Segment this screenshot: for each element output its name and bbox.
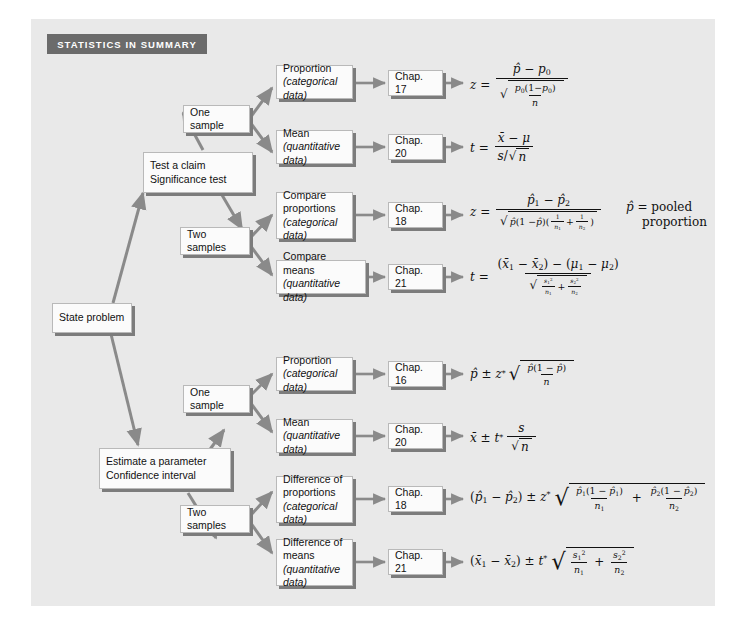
row-label-line1: Compare means xyxy=(283,250,359,277)
row-label-line1: Proportion xyxy=(283,354,346,368)
chapter-label: Chap. 21 xyxy=(395,264,436,291)
chapter-label: Chap. 18 xyxy=(395,486,436,513)
node-chapter-test-two-means[interactable]: Chap. 21 xyxy=(388,264,443,290)
node-label-test-one-proportion[interactable]: Proportion (categorical data) xyxy=(276,65,353,99)
pooled-line2: proportion xyxy=(642,215,707,229)
chapter-label: Chap. 20 xyxy=(395,423,436,450)
node-estimate-a-parameter[interactable]: Estimate a parameter Confidence interval xyxy=(99,448,231,489)
node-chapter-est-one-mean[interactable]: Chap. 20 xyxy=(388,423,443,449)
node-test-a-claim-line2: Significance test xyxy=(150,173,246,187)
row-label-line3: (categorical data) xyxy=(283,216,346,243)
row-label-line2: (categorical data) xyxy=(283,367,346,394)
formula-est-two-means: (x̄1 − x̄2) ± t* √ s12 n1 + s22 n2 xyxy=(470,547,635,575)
node-chapter-test-two-proportions[interactable]: Chap. 18 xyxy=(388,202,443,228)
node-label-test-two-means[interactable]: Compare means (quantitative data) xyxy=(276,260,366,294)
node-label-est-one-proportion[interactable]: Proportion (categorical data) xyxy=(276,357,353,391)
section-header-label: STATISTICS IN SUMMARY xyxy=(57,39,197,50)
pooled-line1: = pooled xyxy=(638,200,693,214)
row-label-line2: (quantitative data) xyxy=(283,429,346,456)
row-label-line1: Mean xyxy=(283,416,346,430)
node-label-est-one-mean[interactable]: Mean (quantitative data) xyxy=(276,419,353,453)
node-chapter-est-two-means[interactable]: Chap. 21 xyxy=(388,549,443,575)
node-est-two-samples-label: Two samples xyxy=(187,506,243,533)
figure-root: STATISTICS IN SUMMARY xyxy=(0,0,748,633)
node-chapter-test-one-proportion[interactable]: Chap. 17 xyxy=(388,70,443,96)
row-label-line1: Mean xyxy=(283,127,346,141)
chapter-label: Chap. 16 xyxy=(395,361,436,388)
content-panel xyxy=(31,19,715,606)
node-chapter-test-one-mean[interactable]: Chap. 20 xyxy=(388,134,443,160)
chapter-label: Chap. 20 xyxy=(395,134,436,161)
node-state-problem-label: State problem xyxy=(59,311,125,325)
chapter-label: Chap. 17 xyxy=(395,70,436,97)
row-label-line2: (quantitative data) xyxy=(283,140,346,167)
row-label-line3: (categorical data) xyxy=(283,500,346,527)
node-label-est-two-proportions[interactable]: Difference of proportions (categorical d… xyxy=(276,476,353,523)
node-est-one-sample[interactable]: One sample xyxy=(183,385,250,413)
row-label-line2: means xyxy=(283,549,346,563)
row-label-line2: proportions xyxy=(283,202,346,216)
node-test-a-claim[interactable]: Test a claim Significance test xyxy=(143,152,253,193)
formula-test-two-means: t = (x̄1 − x̄2) − (μ1 − μ2) √ s12n1 + s2… xyxy=(470,257,624,296)
formula-test-one-proportion: z = p̂ − p0 √ p0(1−p0) n xyxy=(470,62,570,108)
row-label-line2: (quantitative data) xyxy=(283,277,359,304)
pooled-symbol: p̂ xyxy=(626,200,638,214)
annotation-pooled-proportion: p̂ = pooled proportion xyxy=(626,200,707,230)
node-label-est-two-means[interactable]: Difference of means (quantitative data) xyxy=(276,539,353,586)
row-label-line1: Difference of xyxy=(283,473,346,487)
formula-est-two-proportions: (p̂1 − p̂2) ± z* √ p̂1(1 − p̂1) n1 + p̂2… xyxy=(470,483,706,511)
node-test-one-sample[interactable]: One sample xyxy=(183,105,250,133)
row-label-line2: proportions xyxy=(283,486,346,500)
row-label-line1: Proportion xyxy=(283,62,346,76)
chapter-label: Chap. 18 xyxy=(395,202,436,229)
node-label-test-one-mean[interactable]: Mean (quantitative data) xyxy=(276,130,353,164)
node-test-two-samples[interactable]: Two samples xyxy=(180,227,250,255)
node-state-problem[interactable]: State problem xyxy=(52,303,132,333)
node-chapter-est-two-proportions[interactable]: Chap. 18 xyxy=(388,486,443,512)
node-chapter-est-one-proportion[interactable]: Chap. 16 xyxy=(388,361,443,387)
row-label-line1: Compare xyxy=(283,189,346,203)
node-label-test-two-proportions[interactable]: Compare proportions (categorical data) xyxy=(276,192,353,239)
formula-est-one-proportion: p̂ ± z* √ p̂(1 − p̂) n xyxy=(470,360,575,387)
section-header-bar: STATISTICS IN SUMMARY xyxy=(47,34,207,54)
formula-test-two-proportions: z = p̂1 − p̂2 √ p̂(1 − p̂)(1n1 + 1n2) xyxy=(470,193,603,231)
row-label-line1: Difference of xyxy=(283,536,346,550)
node-test-two-samples-label: Two samples xyxy=(187,228,243,255)
node-test-one-sample-label: One sample xyxy=(190,106,243,133)
formula-est-one-mean: x̄ ± t* s √n xyxy=(470,421,538,454)
formula-test-one-mean: t = x̄ − μ s/√n xyxy=(470,131,535,164)
node-estimate-line1: Estimate a parameter xyxy=(106,455,224,469)
row-label-line2: (categorical data) xyxy=(283,75,346,102)
node-est-two-samples[interactable]: Two samples xyxy=(180,505,250,533)
node-test-a-claim-line1: Test a claim xyxy=(150,159,246,173)
chapter-label: Chap. 21 xyxy=(395,549,436,576)
node-est-one-sample-label: One sample xyxy=(190,386,243,413)
row-label-line3: (quantitative data) xyxy=(283,563,346,590)
node-estimate-line2: Confidence interval xyxy=(106,469,224,483)
